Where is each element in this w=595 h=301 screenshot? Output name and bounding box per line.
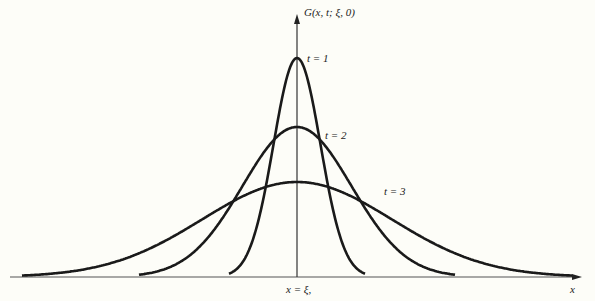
y-axis-label: G(x, t; ξ, 0): [304, 6, 355, 18]
x-axis-label: x: [570, 283, 575, 295]
x-axis-arrow-icon: [572, 274, 582, 280]
curve-label-t1: t = 1: [307, 52, 328, 64]
curve-label-t2: t = 2: [325, 129, 346, 141]
y-axis-arrow-icon: [294, 14, 300, 24]
green-function-diagram: [0, 0, 595, 301]
curve-label-t3: t = 3: [384, 185, 405, 197]
center-label: x = ξ,: [286, 283, 311, 295]
